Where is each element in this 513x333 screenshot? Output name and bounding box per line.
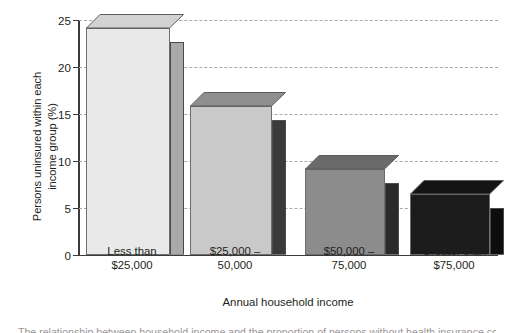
y-tick-label-15: 15 [58, 107, 71, 120]
y-tick-label-25: 25 [58, 14, 71, 27]
y-tick-label-10: 10 [58, 154, 71, 167]
bar-top-face-4 [410, 180, 504, 195]
x-tick-label-4: Greater than $75,000 [384, 244, 513, 272]
y-tick-mark-25 [73, 20, 78, 21]
bar-top-face-2 [190, 92, 286, 107]
bar-top-face-1 [86, 14, 184, 29]
y-axis-title: Persons uninsured within each income gro… [30, 27, 59, 267]
figure-caption-clipped: The relationship between household incom… [18, 326, 496, 333]
chart-figure: Persons uninsured within each income gro… [0, 0, 513, 333]
bar-3 [305, 169, 385, 254]
bar-side-face-2 [272, 120, 286, 254]
bar-front-face-2 [190, 106, 272, 254]
bar-2 [190, 106, 272, 254]
y-tick-mark-10 [73, 161, 78, 162]
bar-front-face-3 [305, 169, 385, 254]
plot-area: 0510152025 [78, 20, 498, 256]
bar-1 [86, 28, 170, 255]
bar-top-face-3 [305, 155, 399, 170]
bar-front-face-1 [86, 28, 170, 255]
y-axis-line [78, 20, 80, 256]
y-tick-label-20: 20 [58, 60, 71, 73]
y-tick-mark-5 [73, 208, 78, 209]
y-tick-label-5: 5 [65, 201, 71, 214]
y-tick-mark-15 [73, 114, 78, 115]
y-tick-mark-20 [73, 67, 78, 68]
bar-side-face-1 [170, 42, 184, 255]
x-axis-title: Annual household income [78, 296, 498, 308]
